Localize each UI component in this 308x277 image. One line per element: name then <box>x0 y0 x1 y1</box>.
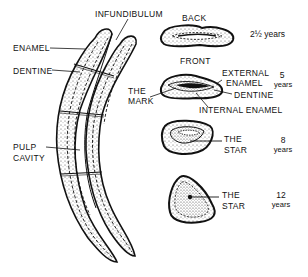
label-the-star-8-2: STAR <box>224 145 247 155</box>
age-unit: years <box>268 200 294 210</box>
age-2-5-years: 2½ years <box>250 29 285 39</box>
label-infundibulum: INFUNDIBULUM <box>95 9 163 19</box>
label-cavity: CAVITY <box>13 153 45 163</box>
age-value: 5 <box>274 70 290 80</box>
label-enamel-external: ENAMEL <box>226 78 263 88</box>
cross-section-12-years <box>169 176 219 223</box>
age-value: 12 <box>268 190 294 200</box>
cross-section-8-years <box>162 121 222 154</box>
age-value: 8 <box>270 135 296 145</box>
tooth-diagram <box>0 0 308 277</box>
label-pulp: PULP <box>13 142 36 152</box>
age-unit: years <box>270 145 296 155</box>
label-the-star-12-1: THE <box>222 190 240 200</box>
age-unit: years <box>274 80 290 90</box>
cross-section-5-years <box>150 75 232 107</box>
label-the-star-8-1: THE <box>224 134 242 144</box>
label-dentine: DENTINE <box>13 66 52 76</box>
age-unit: years <box>264 29 285 39</box>
label-internal-enamel: INTERNAL ENAMEL <box>199 105 283 115</box>
label-the-star-12-2: STAR <box>222 201 245 211</box>
label-front: FRONT <box>180 56 211 66</box>
cross-section-2-5-years <box>161 25 233 46</box>
age-value: 2½ <box>250 29 262 39</box>
label-dentine-cross: DENTINE <box>234 90 273 100</box>
label-external: EXTERNAL <box>222 68 269 78</box>
age-12-years: 12 years <box>268 190 294 210</box>
label-the-mark-2: MARK <box>128 96 154 106</box>
age-5-years: 5 years <box>274 70 290 90</box>
label-enamel: ENAMEL <box>13 43 50 53</box>
longitudinal-section <box>46 19 136 262</box>
label-the-mark-1: THE <box>128 86 146 96</box>
age-8-years: 8 years <box>270 135 296 155</box>
label-back: BACK <box>182 13 206 23</box>
